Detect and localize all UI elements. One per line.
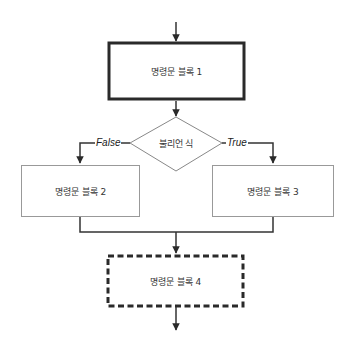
condition-label: 불리언 식	[140, 133, 212, 153]
false-edge-label: False	[95, 137, 121, 149]
merge-line	[80, 217, 273, 232]
true-edge-label: True	[226, 137, 248, 149]
block1-label: 명령문 블록 1	[109, 43, 244, 99]
block2-label: 명령문 블록 2	[21, 165, 140, 217]
block4-label: 명령문 블록 4	[108, 256, 243, 306]
block3-label: 명령문 블록 3	[212, 165, 334, 217]
